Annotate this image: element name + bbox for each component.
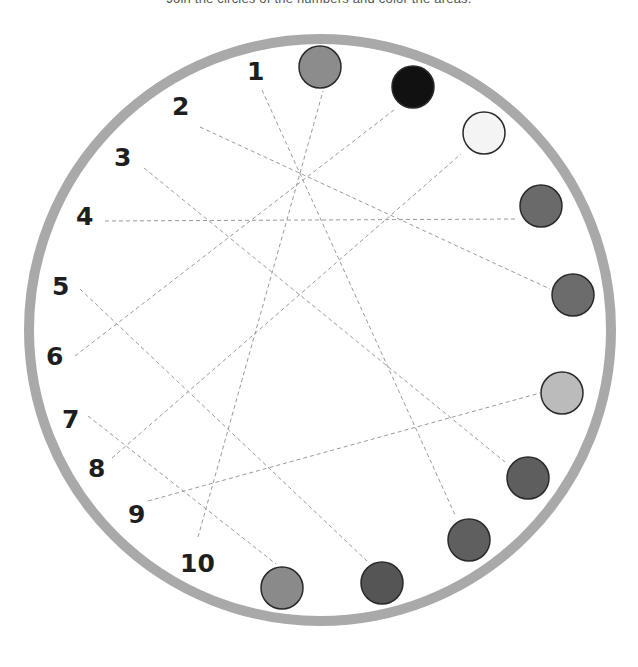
- number-label-5[interactable]: 5: [52, 272, 69, 301]
- color-circle-7[interactable]: [507, 457, 549, 499]
- color-circle-2[interactable]: [392, 66, 434, 108]
- color-circle-1[interactable]: [299, 46, 341, 88]
- number-label-8[interactable]: 8: [88, 454, 105, 483]
- guide-line-9: [148, 393, 540, 501]
- guide-line-2: [200, 127, 550, 289]
- number-label-2[interactable]: 2: [172, 92, 189, 121]
- number-label-6[interactable]: 6: [46, 342, 63, 371]
- dashed-guide-lines: [75, 90, 550, 564]
- color-circle-9[interactable]: [361, 562, 403, 604]
- connect-circle-board: 12345678910: [0, 0, 638, 667]
- color-circle-8[interactable]: [448, 519, 490, 561]
- guide-line-10: [198, 91, 323, 537]
- color-circle-4[interactable]: [520, 185, 562, 227]
- guide-line-3: [144, 168, 505, 462]
- number-label-4[interactable]: 4: [76, 202, 93, 231]
- color-circle-6[interactable]: [541, 372, 583, 414]
- number-label-1[interactable]: 1: [247, 57, 264, 86]
- number-label-9[interactable]: 9: [128, 500, 145, 529]
- guide-line-4: [105, 219, 517, 221]
- guide-line-8: [112, 154, 461, 458]
- color-circle-5[interactable]: [552, 274, 594, 316]
- color-circle-3[interactable]: [463, 112, 505, 154]
- number-label-10[interactable]: 10: [180, 549, 215, 578]
- color-circles: [261, 46, 594, 609]
- guide-line-5: [80, 289, 367, 561]
- outer-ring: [29, 39, 611, 621]
- guide-line-1: [262, 90, 456, 517]
- number-label-3[interactable]: 3: [114, 143, 131, 172]
- color-circle-10[interactable]: [261, 567, 303, 609]
- number-label-7[interactable]: 7: [62, 405, 79, 434]
